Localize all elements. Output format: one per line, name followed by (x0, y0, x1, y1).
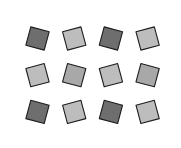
square-tile-dark (99, 100, 122, 123)
square-tile-light (26, 64, 49, 87)
square-tile-dark (99, 27, 122, 50)
square-tile-dark (26, 100, 49, 123)
square-tile-light (136, 100, 159, 123)
square-tile-medium (136, 64, 159, 87)
square-tile-medium (63, 64, 86, 87)
tiles-group (26, 27, 159, 124)
square-tile-light (99, 64, 122, 87)
square-tile-dark (26, 27, 49, 50)
square-tile-light (63, 27, 86, 50)
square-tile-light (63, 100, 86, 123)
square-tile-light (136, 27, 159, 50)
snub-square-tiling (0, 0, 181, 148)
